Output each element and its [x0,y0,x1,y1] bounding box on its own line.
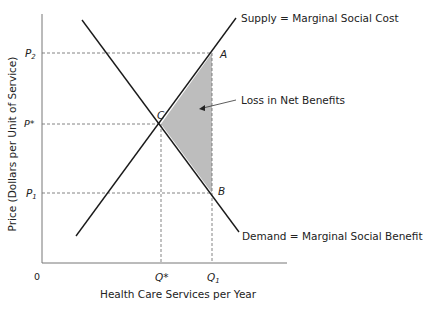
pstar-label: P* [24,119,34,129]
qstar-label: Q* [155,272,169,283]
point-c-label: C [157,110,164,121]
demand-label: Demand = Marginal Social Benefit [242,231,423,242]
point-b-label: B [218,186,225,197]
p1-label: P1 [26,188,37,201]
supply-label: Supply = Marginal Social Cost [241,13,399,24]
loss-triangle [161,53,212,193]
x-axis-label: Health Care Services per Year [100,289,256,300]
y-axis-label: Price (Dollars per Unit of Service) [6,44,18,244]
origin-label: 0 [34,272,40,282]
q1-label: Q1 [207,272,220,285]
loss-annotation: Loss in Net Benefits [241,95,345,106]
p2-label: P2 [25,48,36,61]
point-a-label: A [220,49,227,60]
demand-curve [82,20,239,232]
